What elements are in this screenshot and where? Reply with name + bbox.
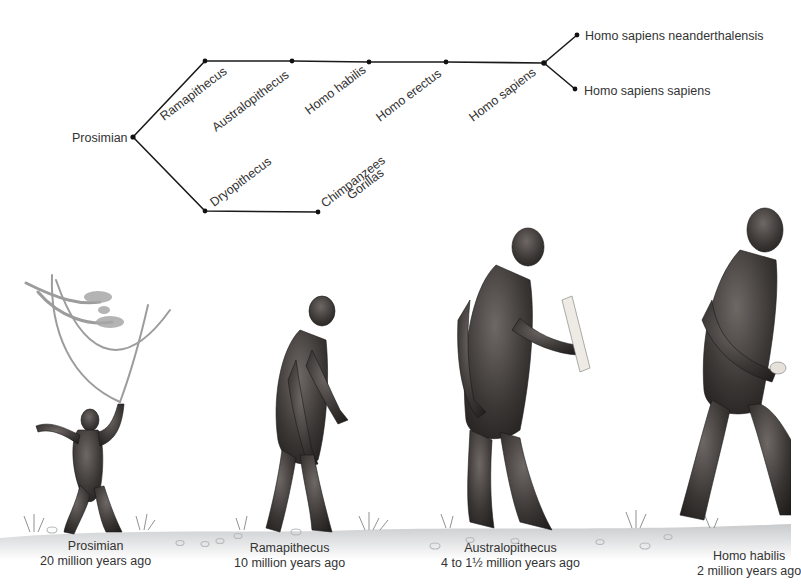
- evolution-illustration: [0, 190, 791, 584]
- label-homo-erectus: Homo erectus: [373, 66, 444, 124]
- node-australopithecus: [290, 59, 295, 64]
- node-prosimian: [130, 134, 135, 139]
- figure-age: 4 to 1½ million years ago: [441, 556, 580, 571]
- label-neanderthalensis: Homo sapiens neanderthalensis: [585, 29, 764, 43]
- australopithecus-illustration: [458, 228, 590, 530]
- node-homo-habilis: [367, 60, 372, 65]
- node-homo-sapiens: [541, 60, 547, 66]
- label-prosimian: Prosimian: [72, 131, 128, 145]
- figure-name: Homo habilis: [697, 549, 801, 564]
- caption-australopithecus: Australopithecus 4 to 1½ million years a…: [441, 541, 580, 571]
- figure-age: 20 million years ago: [40, 554, 151, 569]
- node-neanderthalensis: [575, 33, 580, 38]
- figure-name: Australopithecus: [441, 541, 580, 556]
- prosimian-illustration: [26, 275, 170, 534]
- label-homo-habilis: Homo habilis: [302, 63, 368, 118]
- caption-ramapithecus: Ramapithecus 10 million years ago: [234, 541, 345, 571]
- figure-age: 2 million years ago: [697, 564, 801, 579]
- node-ramapithecus: [203, 59, 208, 64]
- label-sapiens-sapiens: Homo sapiens sapiens: [584, 84, 710, 98]
- figure-age: 10 million years ago: [234, 556, 345, 571]
- caption-homo-habilis: Homo habilis 2 million years ago: [697, 549, 801, 579]
- figure-name: Prosimian: [40, 539, 151, 554]
- node-homo-erectus: [444, 60, 449, 65]
- label-homo-sapiens: Homo sapiens: [466, 65, 538, 124]
- ramapithecus-illustration: [266, 296, 348, 532]
- caption-prosimian: Prosimian 20 million years ago: [40, 539, 151, 569]
- homo-habilis-illustration: [680, 208, 791, 520]
- node-sapiens-sapiens: [573, 87, 578, 92]
- figure-name: Ramapithecus: [234, 541, 345, 556]
